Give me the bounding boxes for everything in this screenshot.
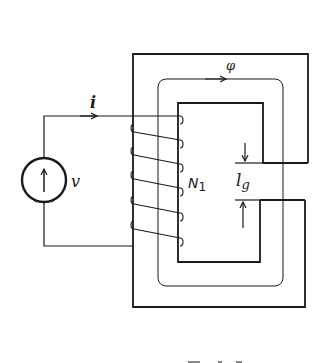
gap-length-label: lg: [236, 170, 250, 192]
wire-bottom: [44, 202, 133, 246]
flux-path: [158, 79, 283, 286]
voltage-source: [22, 158, 66, 202]
current-label: i: [90, 93, 96, 112]
core: [133, 54, 308, 307]
core-outer-outline: [133, 54, 308, 307]
turns-label-main: N: [188, 175, 199, 191]
flux-label: φ: [226, 58, 236, 73]
voltage-label: v: [71, 172, 80, 191]
circuit-wires: [44, 116, 180, 246]
flux-loop: [158, 79, 283, 286]
coil: [131, 116, 183, 246]
turns-label-sub: 1: [198, 180, 206, 194]
turns-label: N1: [188, 175, 206, 194]
magnetic-circuit-diagram: i φ v N1 lg: [0, 0, 327, 363]
gap-label-sub: g: [241, 177, 249, 192]
